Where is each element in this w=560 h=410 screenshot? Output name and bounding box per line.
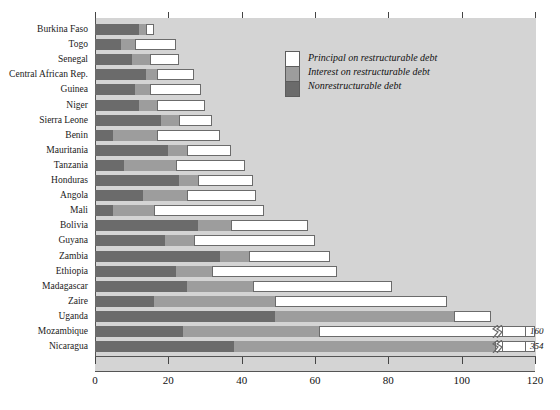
category-label: Sierra Leone <box>39 115 88 126</box>
bar-segment-principal <box>150 84 201 95</box>
bar-row: Senegal <box>95 54 96 65</box>
x-tick-20 <box>168 357 169 364</box>
bar-row: Tanzania <box>95 160 96 171</box>
bar-segment-interest <box>275 311 455 322</box>
bar-segment-nonrestructurable <box>95 296 154 307</box>
bar-row: Bolivia <box>95 220 96 231</box>
bar-segment-interest <box>143 190 187 201</box>
bar-segment-interest <box>220 251 249 262</box>
bar-row: Madagascar <box>95 281 96 292</box>
x-tick-100 <box>462 357 463 364</box>
category-label: Mozambique <box>38 326 88 337</box>
x-tick-40 <box>242 357 243 364</box>
bar-row: Guyana <box>95 235 96 246</box>
bar-row: Togo <box>95 39 96 50</box>
overflow-value-label: 160 <box>530 326 544 337</box>
bar-segment-nonrestructurable <box>95 145 168 156</box>
legend-swatch-nonrestructurable <box>286 81 299 96</box>
x-tick-label-20: 20 <box>163 374 174 386</box>
bar-segment-overflow <box>502 341 526 352</box>
legend-swatches <box>285 51 300 97</box>
bar-segment-interest <box>176 266 213 277</box>
bar-segment-principal <box>179 115 212 126</box>
bar-segment-principal <box>146 24 153 35</box>
category-label: Nicaragua <box>49 341 88 352</box>
bar-segment-principal <box>275 296 447 307</box>
category-label: Uganda <box>58 311 88 322</box>
bar-segment-principal <box>212 266 337 277</box>
bar-segment-principal <box>157 100 205 111</box>
bar-segment-principal <box>198 175 253 186</box>
bar-row: Guinea <box>95 84 96 95</box>
bar-row: Burkina Faso <box>95 24 96 35</box>
bar-segment-nonrestructurable <box>95 115 161 126</box>
bar-row: Mauritania <box>95 145 96 156</box>
bar-segment-nonrestructurable <box>95 326 183 337</box>
bar-segment-interest <box>154 296 275 307</box>
legend-labels: Principal on restructurable debt Interes… <box>308 51 437 93</box>
x-tick-label-100: 100 <box>453 374 470 386</box>
x-tick-60 <box>315 357 316 364</box>
chart-figure: Burkina FasoTogoSenegalCentral African R… <box>0 0 560 410</box>
bar-segment-interest <box>165 235 194 246</box>
legend-swatch-principal <box>286 52 299 66</box>
bar-row: Mozambique160 <box>95 326 96 337</box>
x-tick-label-40: 40 <box>236 374 247 386</box>
category-label: Mauritania <box>46 145 88 156</box>
bar-segment-interest <box>113 205 153 216</box>
bar-segment-interest <box>132 54 150 65</box>
bar-segment-principal <box>231 220 308 231</box>
bar-row: Mali <box>95 205 96 216</box>
bar-row: Niger <box>95 100 96 111</box>
category-label: Honduras <box>51 175 88 186</box>
chart-legend: Principal on restructurable debt Interes… <box>285 51 437 97</box>
bar-segment-nonrestructurable <box>95 251 220 262</box>
category-label: Bolivia <box>60 220 88 231</box>
bar-segment-principal <box>157 69 194 80</box>
bar-row: Uganda <box>95 311 96 322</box>
category-label: Niger <box>66 100 88 111</box>
bar-segment-interest <box>124 160 175 171</box>
bar-segment-principal <box>150 54 179 65</box>
bar-segment-nonrestructurable <box>95 235 165 246</box>
bar-segment-interest <box>113 130 157 141</box>
bar-segment-nonrestructurable <box>95 190 143 201</box>
bar-row: Zambia <box>95 251 96 262</box>
bar-segment-principal <box>253 281 392 292</box>
x-tick-label-60: 60 <box>310 374 321 386</box>
category-label: Burkina Faso <box>37 24 88 35</box>
bar-segment-principal <box>454 311 491 322</box>
bar-segment-principal <box>249 251 330 262</box>
x-tick-label-120: 120 <box>527 374 544 386</box>
bar-row: Honduras <box>95 175 96 186</box>
category-label: Madagascar <box>42 281 88 292</box>
bar-segment-overflow <box>502 326 526 337</box>
bar-segment-nonrestructurable <box>95 39 121 50</box>
x-tick-120 <box>535 357 536 364</box>
bar-segment-principal <box>187 190 257 201</box>
x-tick-0 <box>95 357 96 364</box>
bar-segment-interest <box>179 175 197 186</box>
bar-segment-nonrestructurable <box>95 54 132 65</box>
bar-segment-interest <box>139 100 157 111</box>
bar-segment-nonrestructurable <box>95 220 198 231</box>
legend-label-principal: Principal on restructurable debt <box>308 51 437 65</box>
bar-segment-interest <box>121 39 136 50</box>
bar-row: Benin <box>95 130 96 141</box>
legend-swatch-interest <box>286 66 299 81</box>
bar-row: Sierra Leone <box>95 115 96 126</box>
bar-segment-principal <box>157 130 219 141</box>
bar-segment-nonrestructurable <box>95 266 176 277</box>
category-label: Benin <box>65 130 88 141</box>
bar-segment-interest <box>161 115 179 126</box>
bar-segment-principal <box>176 160 246 171</box>
bar-row: Nicaragua354 <box>95 341 96 352</box>
bar-segment-nonrestructurable <box>95 24 139 35</box>
category-label: Central African Rep. <box>9 69 88 80</box>
category-label: Tanzania <box>54 160 88 171</box>
x-tick-label-80: 80 <box>383 374 394 386</box>
bar-segment-nonrestructurable <box>95 175 179 186</box>
bar-row: Central African Rep. <box>95 69 96 80</box>
category-label: Angola <box>60 190 88 201</box>
bar-segment-interest <box>135 84 150 95</box>
